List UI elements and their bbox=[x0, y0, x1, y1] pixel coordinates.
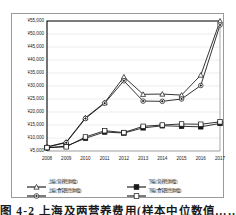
x-axis-tick-labels: 2008200920102011201220132014201520162017 bbox=[42, 156, 225, 161]
svg-text:¥30,000: ¥30,000 bbox=[27, 83, 44, 88]
svg-text:2014: 2014 bbox=[157, 156, 168, 161]
svg-text:¥15,000: ¥15,000 bbox=[27, 122, 44, 127]
svg-text:¥25,000: ¥25,000 bbox=[27, 96, 44, 101]
svg-text:¥5,000: ¥5,000 bbox=[30, 148, 44, 153]
svg-text:2017: 2017 bbox=[215, 156, 225, 161]
svg-text:¥45,000: ¥45,000 bbox=[27, 44, 44, 49]
legend-row: 上端(食管恶性肿瘤)下端(食管恶性肿瘤) bbox=[12, 186, 225, 194]
chart-card: ¥5,000¥10,000¥15,000¥20,000¥25,000¥30,00… bbox=[11, 13, 224, 198]
svg-text:2008: 2008 bbox=[42, 156, 53, 161]
filled-square-marker-icon bbox=[126, 177, 147, 185]
svg-text:¥50,000: ¥50,000 bbox=[27, 31, 44, 36]
svg-text:2013: 2013 bbox=[138, 156, 149, 161]
legend-item-label: 下端(营养性肿瘤) bbox=[148, 178, 178, 184]
svg-text:2016: 2016 bbox=[196, 156, 207, 161]
legend-item[interactable]: 下端(食管恶性肿瘤) bbox=[126, 186, 212, 194]
svg-text:¥55,000: ¥55,000 bbox=[27, 18, 44, 23]
legend-row: 上端(营养性肿瘤)下端(营养性肿瘤) bbox=[12, 177, 225, 185]
legend-item[interactable]: 下端(营养性肿瘤) bbox=[126, 177, 212, 185]
svg-text:¥20,000: ¥20,000 bbox=[27, 109, 44, 114]
series-3 bbox=[45, 120, 223, 150]
svg-text:2011: 2011 bbox=[100, 156, 110, 161]
triangle-marker-icon bbox=[26, 177, 47, 185]
svg-text:¥10,000: ¥10,000 bbox=[27, 135, 44, 140]
legend-item[interactable]: 上端(营养性肿瘤) bbox=[26, 177, 112, 185]
plot-area: ¥5,000¥10,000¥15,000¥20,000¥25,000¥30,00… bbox=[12, 14, 225, 172]
line-chart: ¥5,000¥10,000¥15,000¥20,000¥25,000¥30,00… bbox=[12, 14, 225, 172]
open-square-marker-icon bbox=[126, 186, 147, 194]
svg-text:2015: 2015 bbox=[176, 156, 187, 161]
y-axis-tick-labels: ¥5,000¥10,000¥15,000¥20,000¥25,000¥30,00… bbox=[27, 18, 44, 153]
figure-caption: 图 4-2 上海及两营养费用(样本中位数值…… 图 4 bbox=[0, 202, 236, 215]
figure-container: ¥5,000¥10,000¥15,000¥20,000¥25,000¥30,00… bbox=[0, 0, 236, 215]
legend-item-label: 上端(营养性肿瘤) bbox=[48, 178, 78, 184]
circle-marker-icon bbox=[26, 186, 47, 194]
chart-legend: 上端(营养性肿瘤)下端(营养性肿瘤)上端(食管恶性肿瘤)下端(食管恶性肿瘤) bbox=[12, 172, 225, 199]
svg-text:2012: 2012 bbox=[119, 156, 130, 161]
legend-item[interactable]: 上端(食管恶性肿瘤) bbox=[26, 186, 112, 194]
legend-item-label: 下端(食管恶性肿瘤) bbox=[148, 187, 182, 193]
svg-text:2009: 2009 bbox=[61, 156, 72, 161]
data-series-group bbox=[45, 19, 223, 151]
svg-text:2010: 2010 bbox=[80, 156, 91, 161]
svg-text:¥40,000: ¥40,000 bbox=[27, 57, 44, 62]
svg-text:¥35,000: ¥35,000 bbox=[27, 70, 44, 75]
legend-item-label: 上端(食管恶性肿瘤) bbox=[48, 187, 82, 193]
